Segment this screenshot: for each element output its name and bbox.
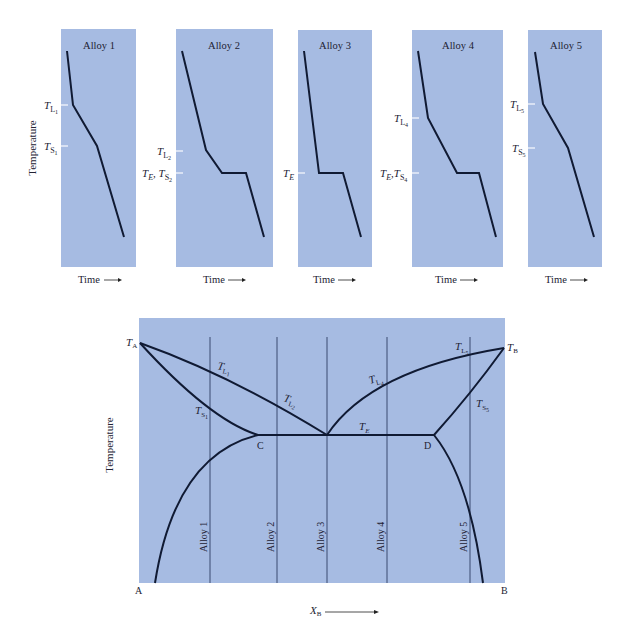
- time-axis-label: Time: [545, 274, 567, 285]
- alloy-line-label-3: Alloy 3: [315, 522, 326, 552]
- point-C: C: [257, 440, 264, 451]
- alloy-line-label-4: Alloy 4: [375, 522, 386, 552]
- time-axis-label: Time: [313, 274, 335, 285]
- panel-title: Alloy 2: [208, 40, 240, 51]
- arrow-right-icon: [584, 278, 588, 282]
- panel-title: Alloy 5: [550, 40, 582, 51]
- panel-title: Alloy 4: [442, 40, 475, 51]
- cooling-panel-alloy-3: Alloy 3 TE Time: [283, 30, 372, 285]
- label-TE: TE: [283, 167, 294, 182]
- alloy-line-label-2: Alloy 2: [265, 522, 276, 552]
- time-axis-label: Time: [203, 274, 225, 285]
- arrow-right-icon: [242, 278, 246, 282]
- point-D: D: [424, 440, 431, 451]
- alloy-line-label-5: Alloy 5: [458, 522, 469, 552]
- time-axis-label: Time: [78, 274, 100, 285]
- arrow-right-icon: [474, 278, 478, 282]
- cooling-panel-alloy-4: Alloy 4 TL4 TE,TS4 Time: [380, 30, 503, 285]
- label-TL2: TL2: [157, 145, 171, 161]
- label-TS1: TS1: [44, 140, 58, 156]
- label-TS5: TS5: [512, 142, 526, 158]
- cooling-panel-alloy-1: Alloy 1 TL1 TS1 Time: [44, 29, 136, 285]
- label-TB: TB: [507, 341, 518, 355]
- arrow-right-icon: [374, 610, 379, 614]
- cooling-panel-alloy-5: Alloy 5 TL5 TS5 Time: [510, 30, 602, 285]
- time-axis-label: Time: [435, 274, 457, 285]
- label-TL1: TL1: [44, 99, 58, 115]
- alloy-line-label-1: Alloy 1: [198, 522, 209, 552]
- panel-title: Alloy 3: [319, 40, 351, 51]
- figure-canvas: Temperature Alloy 1 TL1 TS1 Time Alloy 2…: [0, 0, 618, 625]
- label-TE-TS4: TE,TS4: [380, 167, 407, 183]
- corner-A: A: [135, 585, 143, 596]
- phase-diagram: Alloy 1 Alloy 2 Alloy 3 Alloy 4 Alloy 5 …: [103, 318, 518, 618]
- panel-title: Alloy 1: [83, 40, 115, 51]
- corner-B: B: [501, 585, 508, 596]
- cooling-y-axis-label: Temperature: [26, 120, 38, 176]
- cooling-panel-alloy-2: Alloy 2 TL2 TE, TS2 Time: [142, 29, 273, 285]
- label-TE-TS2: TE, TS2: [142, 167, 172, 183]
- label-TL5: TL5: [510, 98, 524, 114]
- label-TA: TA: [126, 336, 137, 350]
- label-TL4: TL4: [394, 112, 408, 128]
- phase-x-axis-label: XB: [309, 604, 322, 618]
- arrow-right-icon: [352, 278, 356, 282]
- phase-y-axis-label: Temperature: [103, 417, 115, 473]
- arrow-right-icon: [118, 278, 122, 282]
